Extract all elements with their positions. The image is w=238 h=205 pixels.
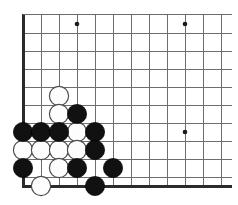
white-stone[interactable]	[13, 140, 32, 159]
white-stone[interactable]	[31, 140, 50, 159]
white-stone[interactable]	[67, 122, 86, 141]
black-stone[interactable]	[31, 122, 50, 141]
black-stone[interactable]	[67, 158, 86, 177]
star-point	[183, 130, 188, 135]
black-stone[interactable]	[85, 176, 104, 195]
star-point	[183, 22, 188, 27]
black-stone[interactable]	[103, 158, 122, 177]
black-stone[interactable]	[85, 122, 104, 141]
black-stone[interactable]	[49, 122, 68, 141]
black-stone[interactable]	[67, 104, 86, 123]
go-board-canvas[interactable]	[0, 0, 238, 205]
white-stone[interactable]	[31, 176, 50, 195]
white-stone[interactable]	[49, 86, 68, 105]
white-stone[interactable]	[67, 140, 86, 159]
black-stone[interactable]	[85, 140, 104, 159]
black-stone[interactable]	[13, 158, 32, 177]
go-board-diagram	[0, 0, 238, 205]
white-stone[interactable]	[49, 158, 68, 177]
white-stone[interactable]	[49, 104, 68, 123]
white-stone[interactable]	[49, 140, 68, 159]
star-point	[75, 22, 80, 27]
black-stone[interactable]	[13, 122, 32, 141]
